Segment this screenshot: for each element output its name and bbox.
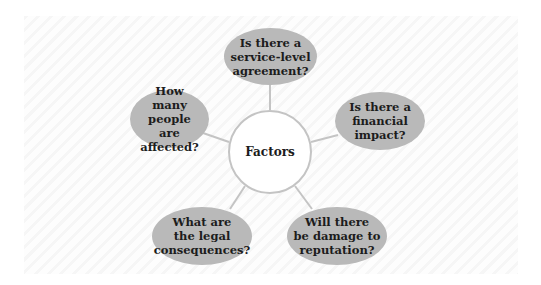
node-label: Is there a service-level agreement? — [230, 36, 310, 78]
node-people-affected: How many people are affected? — [130, 90, 209, 148]
center-node-label: Factors — [245, 145, 295, 159]
connector-bottom-left — [230, 186, 245, 209]
connector-bottom-right — [295, 186, 312, 209]
connector-left — [203, 133, 229, 142]
node-legal-consequences: What are the legal consequences? — [152, 207, 252, 265]
node-label: What are the legal consequences? — [154, 215, 250, 257]
connector-right — [311, 135, 338, 142]
node-damage-to-reputation: Will there be damage to reputation? — [287, 207, 387, 265]
node-label: Will there be damage to reputation? — [294, 215, 381, 257]
node-financial-impact: Is there a financial impact? — [335, 92, 425, 150]
center-node-factors: Factors — [228, 110, 312, 194]
node-service-level-agreement: Is there a service-level agreement? — [224, 28, 317, 85]
node-label: Is there a financial impact? — [349, 100, 411, 142]
node-label: How many people are affected? — [136, 84, 203, 154]
